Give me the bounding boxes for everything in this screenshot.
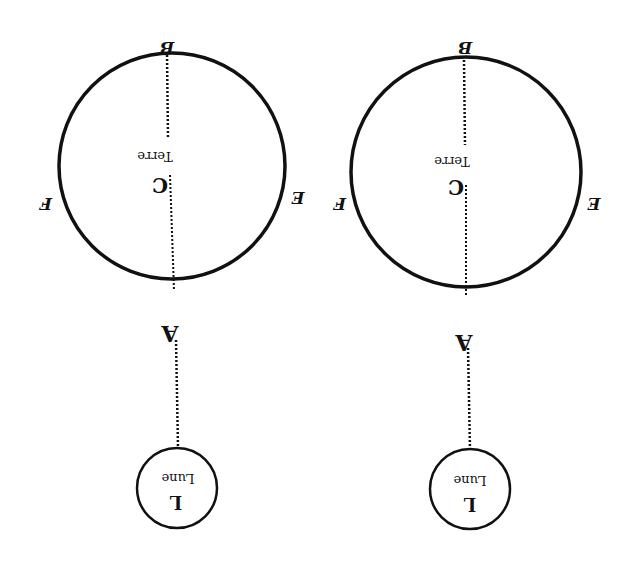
dotted-earth-moon-line bbox=[468, 348, 470, 450]
point-a-label: A bbox=[161, 321, 180, 347]
moon-circle bbox=[137, 448, 217, 528]
point-b-label: B bbox=[458, 38, 473, 58]
moon-label: Lune bbox=[161, 471, 194, 486]
earth-label: Terre bbox=[434, 154, 470, 169]
diagram-left: B F E C Terre A Lune L bbox=[38, 38, 305, 528]
point-f-label: F bbox=[38, 194, 53, 214]
point-f-label: F bbox=[332, 194, 347, 214]
earth-label: Terre bbox=[137, 149, 173, 164]
diagram-right: B F E C Terre A Lune L bbox=[332, 38, 601, 529]
moon-letter: L bbox=[463, 494, 476, 515]
lunar-tide-diagram: B F E C Terre A Lune L B F E C Terre A L… bbox=[0, 0, 639, 581]
moon-label: Lune bbox=[453, 473, 486, 488]
dotted-earth-moon-line bbox=[176, 340, 178, 448]
point-e-label: E bbox=[290, 188, 305, 208]
center-c-label: C bbox=[152, 173, 168, 197]
earth-circle bbox=[59, 53, 285, 279]
center-c-label: C bbox=[448, 175, 464, 199]
point-e-label: E bbox=[586, 194, 601, 214]
point-a-label: A bbox=[455, 330, 474, 356]
dotted-radius-lower bbox=[170, 175, 174, 290]
moon-circle bbox=[430, 449, 510, 529]
dotted-radius-upper bbox=[167, 55, 168, 138]
earth-circle bbox=[351, 57, 581, 287]
point-b-label: B bbox=[160, 38, 175, 58]
figure: B F E C Terre A Lune L B F E C Terre A L… bbox=[0, 0, 639, 581]
moon-letter: L bbox=[169, 492, 182, 513]
dotted-radius-upper bbox=[464, 60, 465, 145]
